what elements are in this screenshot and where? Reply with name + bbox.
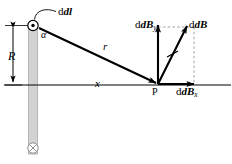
label-alpha-text: α <box>41 29 46 40</box>
label-point-P: P <box>152 87 158 97</box>
label-field-total: ddB <box>189 19 207 30</box>
label-dBy-text: dB <box>141 18 154 30</box>
label-current-element: ddl <box>58 6 72 17</box>
component-construction-dashes <box>158 27 194 85</box>
label-dB-text: dB <box>195 18 208 30</box>
physics-diagram: ddl α R r x P ddBy ddB ddBx <box>0 0 232 164</box>
label-angle-alpha: α <box>41 30 46 40</box>
label-distance-x: x <box>95 78 100 89</box>
label-P-text: P <box>152 86 158 97</box>
label-dBx-text: dB <box>182 85 195 97</box>
wire-conductor <box>29 23 38 154</box>
label-r-text: r <box>103 40 107 52</box>
curved-leader-line <box>35 10 57 20</box>
label-field-y-component: ddBy <box>135 19 157 31</box>
vector-r <box>39 28 156 83</box>
label-x-text: x <box>95 77 100 89</box>
label-dBy-subscript: y <box>153 23 156 32</box>
label-dl-text: dl <box>64 5 73 17</box>
circle-cross-icon <box>28 143 38 153</box>
label-R-text: R <box>8 49 15 63</box>
label-dBx-subscript: x <box>194 90 197 99</box>
circle-dot-icon <box>28 20 38 30</box>
label-distance-r: r <box>103 41 107 52</box>
vector-dB <box>158 26 187 84</box>
label-field-x-component: ddBx <box>176 86 198 98</box>
label-distance-R: R <box>8 50 15 62</box>
